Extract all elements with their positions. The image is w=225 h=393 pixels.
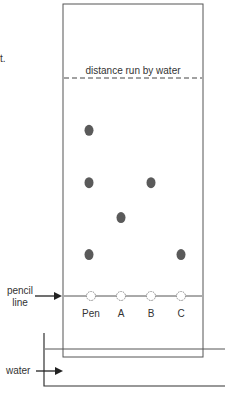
- pencil-label-line1: pencil: [7, 285, 33, 296]
- spot-pen-3: [85, 249, 94, 260]
- pencil-arrow-icon: [54, 292, 62, 300]
- water-arrow-icon: [55, 367, 63, 375]
- lane-label-a: A: [118, 308, 125, 319]
- fragment-text: t.: [0, 53, 6, 64]
- lane-label-b: B: [148, 308, 155, 319]
- origin-spot-a: [117, 292, 126, 301]
- pencil-label-line2: line: [12, 297, 28, 308]
- spot-pen-1: [85, 125, 94, 136]
- spot-b-1: [147, 177, 156, 188]
- spot-pen-2: [85, 177, 94, 188]
- lane-label-c: C: [177, 308, 184, 319]
- origin-spot-pen: [87, 292, 96, 301]
- origin-spot-b: [147, 292, 156, 301]
- lane-label-pen: Pen: [82, 308, 100, 319]
- chromatography-paper: [63, 4, 203, 357]
- spot-c-1: [177, 249, 186, 260]
- water-label: water: [5, 365, 31, 376]
- beaker-outline: [44, 333, 225, 386]
- origin-spot-c: [177, 292, 186, 301]
- chromatography-diagram: t. distance run by water pencil line Pen…: [0, 0, 225, 393]
- lanes: PenABC: [82, 125, 185, 319]
- solvent-front-label: distance run by water: [85, 65, 181, 76]
- spot-a-1: [117, 212, 126, 223]
